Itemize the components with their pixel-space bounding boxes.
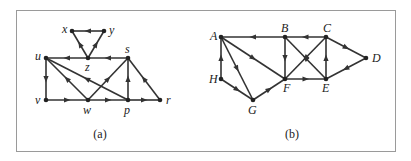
node-y: [102, 29, 107, 34]
node-p: [126, 98, 131, 103]
arrow-icon: [76, 40, 84, 48]
arrow-icon: [218, 55, 223, 62]
node-D: [364, 56, 369, 61]
arrow-icon: [64, 55, 71, 60]
graph-panel-b: ABCDHFEG(b): [208, 21, 381, 141]
node-label-w: w: [83, 103, 91, 117]
arrow-icon: [250, 34, 257, 39]
arrow-icon: [323, 55, 328, 62]
node-label-F: F: [282, 81, 291, 95]
node-label-z: z: [84, 60, 90, 74]
node-x: [70, 29, 75, 34]
node-B: [283, 35, 288, 40]
node-label-y: y: [108, 23, 115, 37]
panel-caption: (a): [93, 127, 106, 141]
arrow-icon: [92, 40, 100, 48]
node-H: [219, 77, 224, 82]
node-label-r: r: [166, 93, 171, 107]
node-r: [158, 98, 163, 103]
arrow-icon: [233, 65, 241, 73]
node-G: [251, 98, 256, 103]
graph-figure: xyzusvwpr(a)ABCDHFEG(b): [0, 0, 411, 161]
arrow-icon: [342, 44, 350, 52]
node-A: [219, 35, 224, 40]
arrow-icon: [303, 76, 310, 81]
arrow-icon: [282, 55, 287, 62]
arrow-icon: [105, 55, 112, 60]
arrow-icon: [302, 34, 309, 39]
node-label-B: B: [281, 21, 289, 35]
node-label-D: D: [371, 51, 381, 65]
node-u: [44, 56, 49, 61]
node-C: [324, 35, 329, 40]
arrow-icon: [125, 76, 130, 83]
node-label-G: G: [248, 103, 257, 117]
node-label-x: x: [61, 22, 68, 36]
node-label-H: H: [208, 72, 219, 86]
node-label-u: u: [35, 49, 41, 63]
arrow-icon: [342, 65, 350, 73]
node-label-C: C: [323, 21, 332, 35]
node-s: [126, 56, 131, 61]
arrow-icon: [64, 97, 71, 102]
arrow-icon: [43, 76, 48, 83]
node-label-A: A: [209, 29, 218, 43]
graph-panel-a: xyzusvwpr(a): [35, 22, 171, 141]
panel-caption: (b): [285, 127, 299, 141]
node-v: [44, 98, 49, 103]
arrow-icon: [85, 28, 92, 33]
node-label-p: p: [123, 103, 130, 117]
arrow-icon: [83, 75, 91, 83]
node-label-v: v: [35, 93, 41, 107]
arrow-icon: [141, 97, 148, 102]
arrow-icon: [105, 97, 112, 102]
node-label-E: E: [321, 81, 330, 95]
node-label-s: s: [125, 42, 130, 56]
node-w: [86, 98, 91, 103]
